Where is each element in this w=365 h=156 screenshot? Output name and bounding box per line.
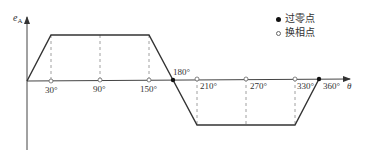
legend-label: 过零点 [285,12,315,26]
tick-label-330: 330° [297,81,315,91]
legend: 过零点 换相点 [276,12,315,40]
legend-item-zero-crossing: 过零点 [276,12,315,26]
tick-label-360: 360° [323,81,341,91]
legend-label: 换相点 [285,26,315,40]
legend-item-commutation: 换相点 [276,26,315,40]
tick-label-270: 270° [250,81,268,91]
tick-label-90: 90° [93,84,106,94]
x-axis-label: θ [347,81,352,91]
tick-label-180: 180° [173,67,191,77]
filled-dot-icon [276,17,281,22]
tick-label-30: 30° [45,85,58,95]
y-axis-label: eA [13,12,23,25]
tick-label-150: 150° [140,84,158,94]
hollow-dot-icon [276,31,281,36]
tick-label-210: 210° [200,81,218,91]
